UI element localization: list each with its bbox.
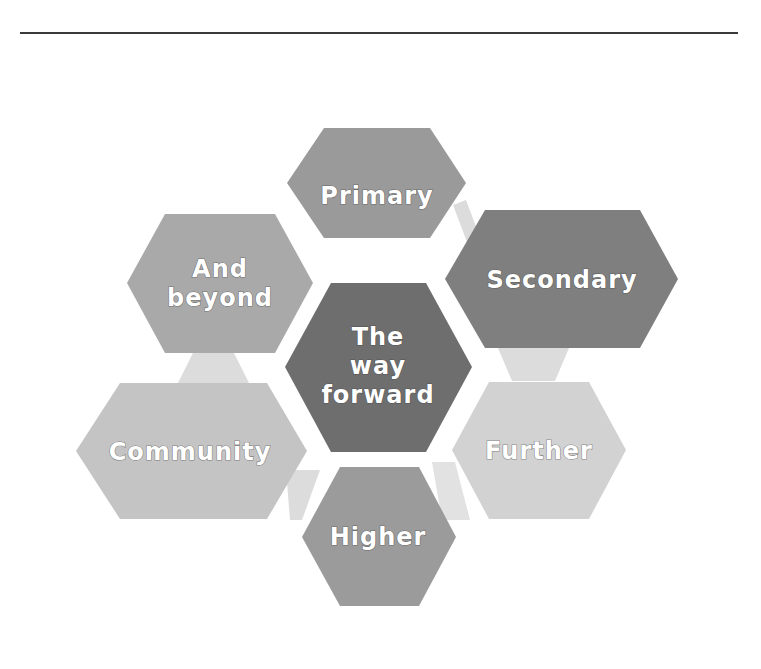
connector-secondary-further (498, 348, 569, 381)
hex-label-secondary: Secondary (486, 266, 637, 294)
hex-and-beyond[interactable]: And beyond (127, 214, 313, 353)
hex-label-primary: Primary (320, 182, 433, 210)
hex-label-center-line3: forward (321, 381, 434, 409)
hex-primary[interactable]: Primary (287, 128, 466, 238)
hex-label-and-beyond-line1: And (192, 255, 248, 283)
hex-label-community: Community (109, 438, 272, 466)
hex-label-center-line2: way (350, 352, 406, 380)
hex-label-and-beyond-line2: beyond (167, 284, 273, 312)
hex-label-further: Further (485, 437, 593, 465)
hex-further[interactable]: Further (452, 382, 626, 519)
connector-andbeyond-community (178, 353, 249, 383)
hex-label-higher: Higher (330, 523, 427, 551)
hex-secondary[interactable]: Secondary (445, 210, 678, 348)
hex-higher[interactable]: Higher (302, 467, 456, 606)
hex-center-the-way-forward[interactable]: The way forward (285, 283, 472, 452)
hex-community[interactable]: Community (76, 383, 307, 519)
hex-label-center-line1: The (352, 323, 405, 351)
hexagon-diagram: Primary Secondary And beyond Community F… (0, 0, 761, 669)
